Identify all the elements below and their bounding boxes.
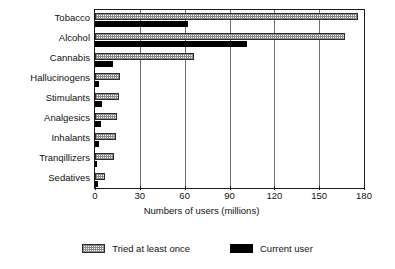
x-axis-tick-label: 120: [266, 190, 282, 201]
bar-tried-at-least-once: [95, 93, 119, 100]
y-axis-labels: Tobacco Alcohol Cannabis Hallucinogens S…: [0, 9, 90, 189]
bar-current-user: [95, 141, 99, 147]
bar-tried-at-least-once: [95, 53, 194, 60]
legend-item-current: Current user: [230, 243, 313, 254]
x-axis-title-text: Numbers of users (millions): [144, 205, 260, 216]
legend-label: Tried at least once: [112, 243, 190, 254]
bar-current-user: [95, 101, 102, 107]
bar-current-user: [95, 61, 113, 67]
bar-tried-at-least-once: [95, 153, 114, 160]
x-axis-tick-label: 0: [92, 190, 97, 201]
x-axis-title: Numbers of users (millions): [0, 205, 395, 216]
plot-area: [94, 9, 365, 189]
y-axis-tick-label: Inhalants: [51, 133, 90, 143]
y-axis-tick-label: Cannabis: [50, 53, 90, 63]
y-axis-tick-label: Tobacco: [55, 13, 90, 23]
bar-tried-at-least-once: [95, 33, 345, 40]
y-axis-tick-label: Analgesics: [44, 113, 90, 123]
bar-tried-at-least-once: [95, 133, 116, 140]
bar-current-user: [95, 161, 97, 167]
y-axis-tick-label: Tranqillizers: [39, 153, 90, 163]
x-axis-ticks: 0306090120150180: [0, 190, 395, 204]
y-axis-tick-label: Alcohol: [59, 33, 90, 43]
bar-tried-at-least-once: [95, 113, 117, 120]
bar-tried-at-least-once: [95, 173, 105, 180]
y-axis-tick-label: Sedatives: [48, 173, 90, 183]
bar-chart: Tobacco Alcohol Cannabis Hallucinogens S…: [0, 0, 395, 269]
bar-current-user: [95, 81, 99, 87]
x-axis-tick-label: 90: [224, 190, 235, 201]
bar-tried-at-least-once: [95, 13, 358, 20]
bar-tried-at-least-once: [95, 73, 120, 80]
x-axis-tick-label: 150: [311, 190, 327, 201]
chart-legend: Tried at least once Current user: [0, 240, 395, 256]
x-axis-tick-label: 30: [135, 190, 146, 201]
black-swatch-icon: [230, 244, 253, 253]
legend-label: Current user: [260, 243, 313, 254]
legend-item-tried: Tried at least once: [82, 243, 190, 254]
bar-current-user: [95, 41, 247, 47]
x-axis-tick-label: 180: [356, 190, 372, 201]
x-axis-tick-label: 60: [179, 190, 190, 201]
hatched-swatch-icon: [82, 244, 105, 253]
y-axis-tick-label: Stimulants: [46, 93, 90, 103]
bar-current-user: [95, 21, 188, 27]
y-axis-tick-label: Hallucinogens: [30, 73, 90, 83]
bar-current-user: [95, 121, 101, 127]
